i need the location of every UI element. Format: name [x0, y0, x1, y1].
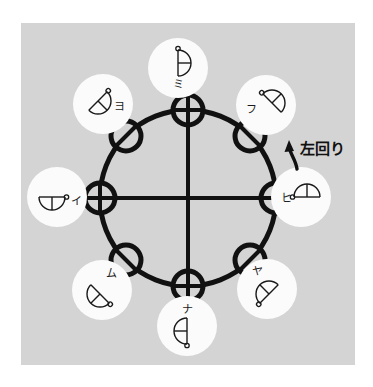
- node-label-sw: ム: [106, 267, 117, 280]
- diagram-canvas: ミ ヨ フ: [0, 0, 373, 387]
- node-label-n: ミ: [173, 78, 184, 91]
- rotation-arrow-icon: [285, 140, 298, 169]
- node-marker-w[interactable]: [85, 183, 115, 213]
- badge-node-w[interactable]: イ: [27, 167, 87, 227]
- node-label-ne: フ: [246, 103, 257, 116]
- badge-node-se[interactable]: ヤ: [237, 259, 297, 319]
- badge-node-nw[interactable]: ヨ: [73, 74, 133, 134]
- node-label-nw: ヨ: [114, 100, 125, 113]
- node-label-e: ヒ: [281, 192, 292, 205]
- node-marker-n[interactable]: [173, 95, 203, 125]
- badge-node-ne[interactable]: フ: [236, 75, 296, 135]
- node-label-w: イ: [71, 195, 82, 208]
- rotation-direction-label: 左回り: [300, 137, 345, 158]
- node-label-s: ナ: [182, 303, 193, 316]
- badge-node-sw[interactable]: ム: [72, 260, 132, 320]
- badge-node-e[interactable]: ヒ: [271, 167, 331, 227]
- badge-node-s[interactable]: ナ: [157, 296, 217, 356]
- node-label-se: ヤ: [252, 265, 263, 278]
- rotation-diagram: ミ ヨ フ: [0, 0, 373, 387]
- badge-disc: [237, 259, 297, 319]
- badge-disc: [72, 260, 132, 320]
- badge-node-n[interactable]: ミ: [148, 38, 208, 98]
